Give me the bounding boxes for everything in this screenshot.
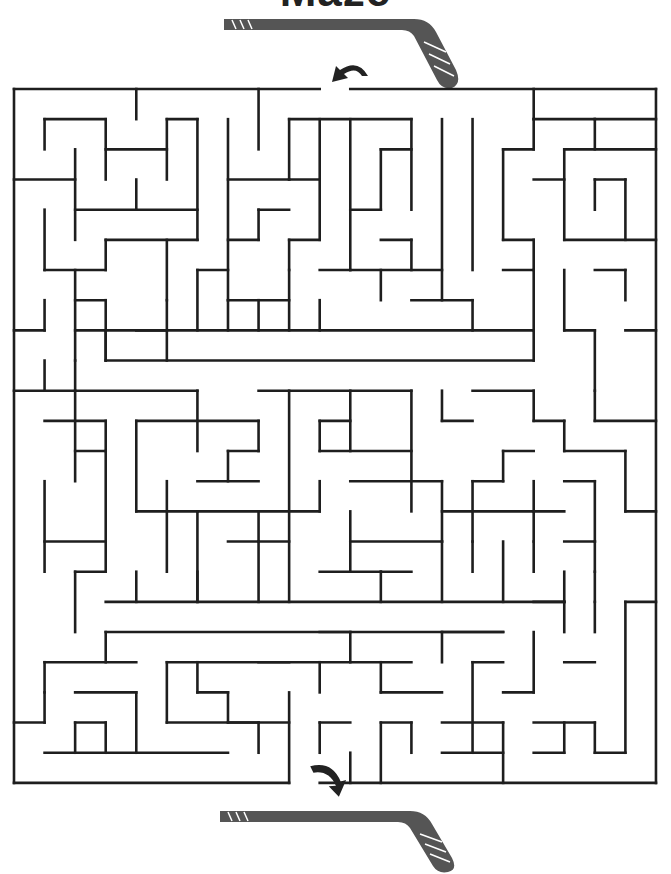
exit-arrow-icon: [304, 759, 349, 797]
entrance-arrow-icon: [332, 65, 368, 82]
maze-walls: [14, 89, 656, 783]
maze-grid[interactable]: [0, 0, 671, 874]
